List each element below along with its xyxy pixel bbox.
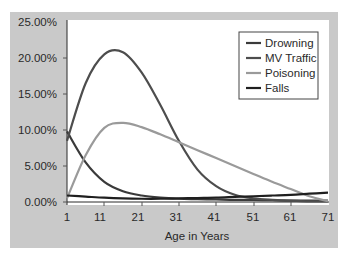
y-tick-label: 10.00% bbox=[18, 124, 57, 136]
legend-label: Drowning bbox=[265, 37, 314, 49]
x-tick-label: 21 bbox=[132, 211, 145, 223]
legend-label: Falls bbox=[265, 82, 290, 94]
x-tick-label: 71 bbox=[322, 211, 335, 223]
x-tick-label: 1 bbox=[64, 211, 70, 223]
y-ticks: 0.00% 5.00% 10.00% 15.00% 20.00% 25.00% bbox=[18, 16, 67, 208]
x-tick-label: 31 bbox=[170, 211, 183, 223]
x-tick-label: 11 bbox=[94, 211, 106, 223]
x-tick-label: 41 bbox=[208, 211, 221, 223]
y-tick-label: 5.00% bbox=[24, 160, 57, 172]
line-chart: 0.00% 5.00% 10.00% 15.00% 20.00% 25.00% … bbox=[0, 0, 347, 263]
y-tick-label: 0.00% bbox=[24, 196, 57, 208]
x-tick-label: 61 bbox=[284, 211, 297, 223]
legend-label: MV Traffic bbox=[265, 52, 317, 64]
x-ticks: 1 11 21 31 41 51 61 71 bbox=[64, 202, 335, 223]
legend: Drowning MV Traffic Poisoning Falls bbox=[239, 32, 318, 99]
x-axis-label: Age in Years bbox=[165, 230, 230, 242]
y-tick-label: 15.00% bbox=[18, 88, 57, 100]
legend-label: Poisoning bbox=[265, 67, 316, 79]
y-tick-label: 25.00% bbox=[18, 16, 57, 28]
y-tick-label: 20.00% bbox=[18, 52, 57, 64]
x-tick-label: 51 bbox=[247, 211, 260, 223]
